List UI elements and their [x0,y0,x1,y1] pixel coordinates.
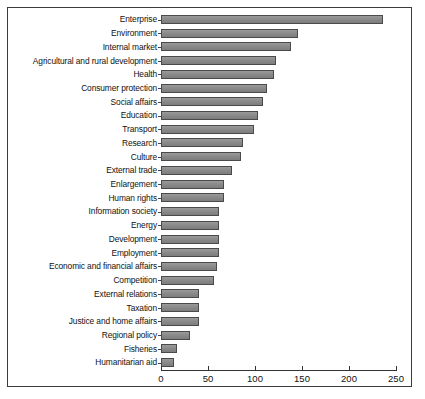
category-tick [158,266,161,267]
bar-fisheries [161,344,177,353]
x-axis-tick-label: 200 [341,374,357,384]
bar-regional-policy [161,331,190,340]
category-tick [158,239,161,240]
category-tick [158,253,161,254]
category-label: Culture [131,153,157,162]
category-tick [158,184,161,185]
category-tick [158,129,161,130]
category-tick [158,102,161,103]
bar-external-relations [161,289,199,298]
category-label: External relations [94,290,157,299]
x-axis-tick [161,366,162,370]
bar-health [161,70,274,79]
category-tick [158,74,161,75]
x-axis-tick-label: 100 [247,374,263,384]
category-tick [158,33,161,34]
bar-culture [161,152,241,161]
category-label: Enlargement [111,180,157,189]
category-label: Internal market [103,43,157,52]
category-tick [158,20,161,21]
bar-development [161,235,219,244]
bar-consumer-protection [161,84,267,93]
category-label: Consumer protection [81,84,157,93]
category-tick [158,170,161,171]
bar-enlargement [161,180,224,189]
bar-transport [161,125,254,134]
category-tick [158,143,161,144]
x-axis-tick [255,366,256,370]
category-label: Regional policy [102,331,157,340]
category-tick [158,335,161,336]
bar-environment [161,29,298,38]
x-axis-tick-label: 0 [158,374,163,384]
bar-agricultural-and-rural-development [161,56,276,65]
bar-taxation [161,303,199,312]
category-tick [158,321,161,322]
category-tick [158,294,161,295]
bar-chart-plot-area: EnterpriseEnvironmentInternal marketAgri… [8,8,413,388]
category-label: Competition [113,276,157,285]
category-label: External trade [106,166,157,175]
chart-frame: EnterpriseEnvironmentInternal marketAgri… [7,7,412,387]
category-label: Agricultural and rural development [33,57,157,66]
category-label: Humanitarian aid [95,358,157,367]
category-label: Transport [122,125,157,134]
bar-human-rights [161,193,224,202]
category-label: Employment [111,249,157,258]
x-axis-tick [396,366,397,370]
x-axis-tick-label: 250 [388,374,404,384]
bar-justice-and-home-affairs [161,317,199,326]
bar-employment [161,248,219,257]
category-label: Health [133,70,157,79]
bar-economic-and-financial-affairs [161,262,217,271]
x-axis-line [161,370,397,371]
bar-external-trade [161,166,232,175]
category-tick [158,308,161,309]
category-tick [158,225,161,226]
category-label: Development [109,235,157,244]
bar-social-affairs [161,97,263,106]
category-label: Economic and financial affairs [49,262,157,271]
category-tick [158,88,161,89]
category-tick [158,198,161,199]
category-tick [158,157,161,158]
x-axis-tick [302,366,303,370]
category-label: Fisheries [124,345,157,354]
category-label: Justice and home affairs [69,317,157,326]
category-tick [158,47,161,48]
bar-education [161,111,258,120]
category-label: Environment [111,29,157,38]
bar-energy [161,221,219,230]
category-tick [158,61,161,62]
category-label: Taxation [127,304,157,313]
category-tick [158,349,161,350]
category-tick [158,212,161,213]
category-label: Social affairs [111,98,157,107]
category-label: Education [121,111,157,120]
category-label: Energy [131,221,157,230]
category-tick [158,280,161,281]
bar-competition [161,276,214,285]
bar-research [161,138,243,147]
category-tick [158,116,161,117]
bar-information-society [161,207,219,216]
bar-humanitarian-aid [161,358,174,367]
x-axis-tick-label: 150 [294,374,310,384]
x-axis-tick [349,366,350,370]
bar-enterprise [161,15,383,24]
category-label: Enterprise [120,15,157,24]
category-label: Research [122,139,157,148]
category-label: Information society [89,207,157,216]
category-tick [158,363,161,364]
category-label: Human rights [108,194,157,203]
x-axis-tick [208,366,209,370]
bar-internal-market [161,42,291,51]
x-axis-tick-label: 50 [203,374,214,384]
